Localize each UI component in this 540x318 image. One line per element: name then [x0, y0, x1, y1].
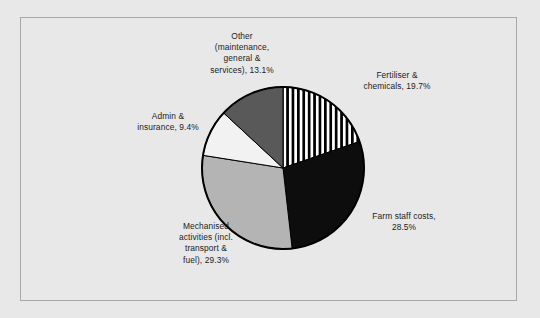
pie-slice-label-fertiliser: Fertiliser & chemicals, 19.7% — [336, 70, 458, 92]
pie-slice-label-admin-insurance: Admin & insurance, 9.4% — [108, 111, 228, 133]
pie-slice-label-other: Other (maintenance, general & services),… — [178, 31, 306, 76]
pie-slice-label-farm-staff-costs: Farm staff costs, 28.5% — [344, 211, 464, 233]
pie-slice-label-mechanised-activities: Mechanised activities (incl. transport &… — [146, 221, 266, 266]
